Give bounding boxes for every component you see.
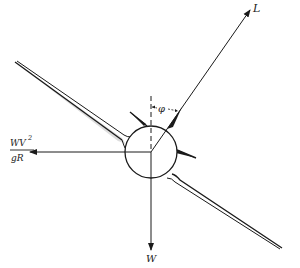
centrifugal-exponent: 2	[27, 134, 32, 142]
left-wing	[15, 61, 131, 148]
centrifugal-denominator: gR	[11, 153, 24, 163]
weight-label: W	[146, 253, 157, 264]
centrifugal-force-label: WV 2 gR	[10, 134, 34, 163]
bank-angle-indicator: φ	[152, 103, 178, 114]
banked-turn-diagram: φ L W WV 2 gR	[0, 0, 300, 268]
centrifugal-numerator: WV	[10, 138, 27, 148]
bank-angle-label: φ	[158, 103, 165, 114]
lift-vector	[151, 10, 250, 152]
right-wing	[167, 174, 282, 249]
lift-label: L	[252, 2, 260, 15]
